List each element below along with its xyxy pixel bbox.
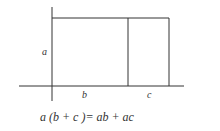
label-a: a — [42, 46, 47, 57]
label-b: b — [82, 89, 87, 100]
area-model-diagram: a b c a (b + c )= ab + ac — [0, 0, 220, 131]
label-c: c — [147, 89, 152, 100]
equation: a (b + c )= ab + ac — [40, 110, 135, 124]
